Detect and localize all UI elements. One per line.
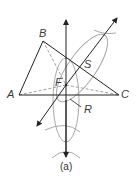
bisector-diagonal-down — [37, 85, 66, 126]
point-f — [65, 84, 67, 86]
caption: (a) — [60, 162, 72, 172]
dashed-lines — [19, 41, 119, 95]
triangle-abc — [19, 41, 119, 95]
label-s: S — [84, 59, 91, 70]
label-c: C — [121, 89, 129, 100]
label-r: R — [84, 104, 92, 115]
construction-diagram — [0, 0, 136, 184]
label-a: A — [7, 89, 14, 100]
label-b: B — [39, 28, 46, 39]
label-f: F — [55, 77, 62, 88]
